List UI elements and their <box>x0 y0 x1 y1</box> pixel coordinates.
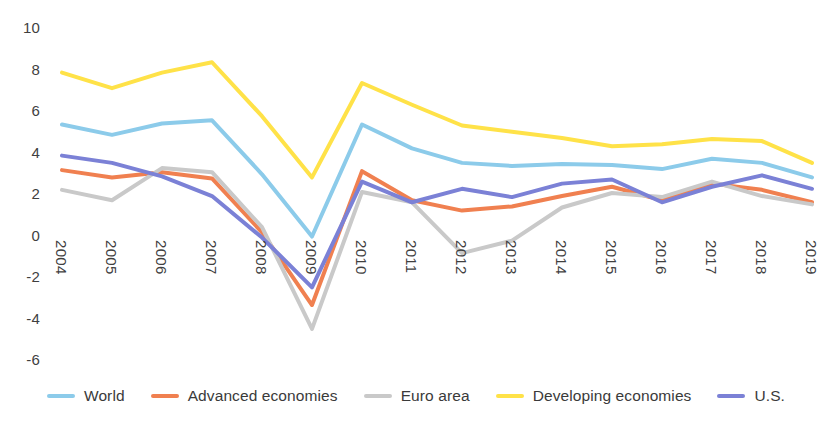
legend-label: Developing economies <box>533 387 692 405</box>
series-group <box>62 62 812 329</box>
x-tick-label: 2005 <box>104 240 119 275</box>
y-tick-label: -6 <box>0 352 40 367</box>
x-tick-label: 2012 <box>454 240 469 275</box>
legend-label: Euro area <box>401 387 470 405</box>
line-swatch-icon <box>47 394 75 398</box>
legend-label: U.S. <box>754 387 785 405</box>
x-tick-label: 2007 <box>204 240 219 275</box>
legend-label: World <box>84 387 125 405</box>
x-tick-label: 2017 <box>704 240 719 275</box>
x-tick-label: 2016 <box>654 240 669 275</box>
x-tick-label: 2013 <box>504 240 519 275</box>
series-line-world <box>62 120 812 236</box>
legend-item[interactable]: U.S. <box>717 387 785 405</box>
line-swatch-icon <box>364 394 392 398</box>
legend-item[interactable]: World <box>47 387 125 405</box>
x-tick-label: 2008 <box>254 240 269 275</box>
x-tick-label: 2004 <box>54 240 69 275</box>
legend-item[interactable]: Advanced economies <box>151 387 338 405</box>
y-tick-label: 0 <box>0 228 40 243</box>
y-tick-label: 4 <box>0 145 40 160</box>
y-tick-label: 10 <box>0 20 40 35</box>
y-tick-label: 8 <box>0 62 40 77</box>
x-tick-label: 2011 <box>404 240 419 273</box>
x-tick-label: 2010 <box>354 240 369 275</box>
x-tick-label: 2018 <box>754 240 769 275</box>
x-tick-label: 2015 <box>604 240 619 275</box>
line-swatch-icon <box>496 394 524 398</box>
x-tick-label: 2009 <box>304 240 319 275</box>
y-tick-label: -4 <box>0 311 40 326</box>
y-tick-label: -2 <box>0 269 40 284</box>
y-tick-label: 6 <box>0 103 40 118</box>
plot-area <box>0 0 832 437</box>
x-tick-label: 2014 <box>554 240 569 275</box>
line-chart: 1086420-2-4-6 20042005200620072008200920… <box>0 0 832 437</box>
legend-label: Advanced economies <box>188 387 338 405</box>
x-tick-label: 2019 <box>804 240 819 275</box>
line-swatch-icon <box>151 394 179 398</box>
legend-item[interactable]: Developing economies <box>496 387 692 405</box>
legend-item[interactable]: Euro area <box>364 387 470 405</box>
x-tick-label: 2006 <box>154 240 169 275</box>
line-swatch-icon <box>717 394 745 398</box>
chart-legend: WorldAdvanced economiesEuro areaDevelopi… <box>0 381 832 411</box>
y-tick-label: 2 <box>0 186 40 201</box>
